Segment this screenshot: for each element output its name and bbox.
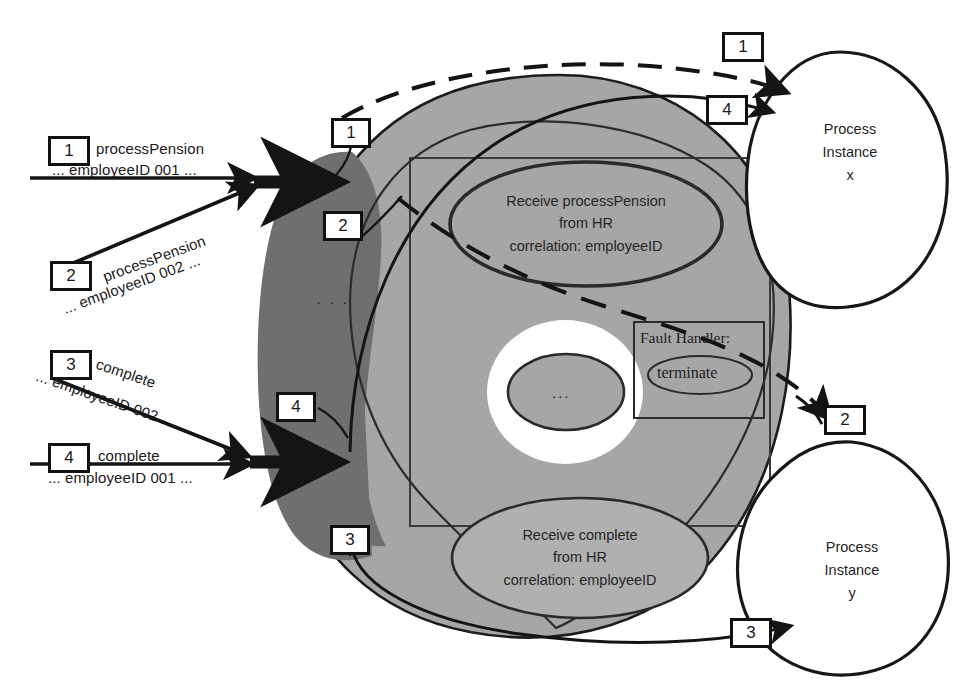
engine-marker-number-1: 1 xyxy=(346,123,355,143)
engine-marker-box-4: 4 xyxy=(276,392,316,422)
process-instance-y-label: Process Instance y xyxy=(792,536,912,606)
receive-complete-label: Receive complete from HR correlation: em… xyxy=(460,524,700,591)
inbound-label-number-3: 3 xyxy=(66,355,75,375)
process-instance-x-label: Process Instance x xyxy=(790,118,910,188)
fault-handler-title: Fault Handler: xyxy=(640,329,730,347)
inbound-label-number-4: 4 xyxy=(64,448,73,468)
routing-marker-box-4: 4 xyxy=(706,95,748,125)
inbound-label-number-1: 1 xyxy=(64,141,73,161)
engine-marker-box-3: 3 xyxy=(330,525,370,555)
inbound-message-1-line2: ... employeeID 001 ... xyxy=(52,160,197,179)
message-queue-blob xyxy=(258,152,386,560)
routing-marker-number-2: 2 xyxy=(840,410,849,430)
engine-marker-box-2: 2 xyxy=(323,211,363,241)
inbound-label-box-2: 2 xyxy=(50,261,92,291)
routing-marker-number-1: 1 xyxy=(738,37,747,57)
inbound-message-4-line2: ... employeeID 001 ... xyxy=(48,468,193,487)
routing-marker-number-3: 3 xyxy=(746,623,755,643)
routing-marker-box-3: 3 xyxy=(730,618,772,648)
inbound-message-1-line1: processPension xyxy=(96,139,204,158)
inbound-label-number-2: 2 xyxy=(66,266,75,286)
inbound-message-4-line1: complete xyxy=(98,446,160,465)
queue-ellipsis: · · · xyxy=(316,296,349,309)
engine-marker-box-1: 1 xyxy=(331,118,371,148)
engine-marker-number-4: 4 xyxy=(291,397,300,417)
diagram-canvas: 1 processPension ... employeeID 001 ... … xyxy=(0,0,980,698)
routing-marker-number-4: 4 xyxy=(722,100,731,120)
engine-marker-number-3: 3 xyxy=(345,530,354,550)
receive-process-pension-label: Receive processPension from HR correlati… xyxy=(466,190,706,257)
engine-marker-number-2: 2 xyxy=(338,216,347,236)
ellipsis-activity-label: ... xyxy=(552,384,571,401)
fault-handler-terminate-label: terminate xyxy=(657,364,717,382)
routing-marker-box-1: 1 xyxy=(722,32,764,62)
routing-marker-box-2: 2 xyxy=(824,405,866,435)
routing-curve-2-tail xyxy=(796,396,822,424)
